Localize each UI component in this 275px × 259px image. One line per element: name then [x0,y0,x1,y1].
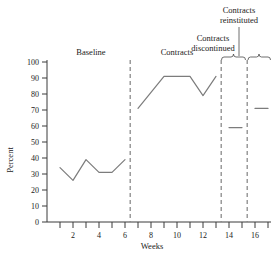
y-axis-title: Percent [5,147,15,173]
x-tick-8: 8 [149,231,153,240]
phase-label-baseline: Baseline [76,47,105,57]
x-axis-title: Weeks [141,241,163,251]
y-tick-80: 80 [31,90,39,99]
annotation-discontinued-line2: discontinued [191,43,235,53]
x-axis-ticks [60,222,268,228]
y-tick-40: 40 [31,154,39,163]
y-tick-10: 10 [31,202,39,211]
series-baseline [60,160,125,181]
x-tick-10: 10 [173,231,181,240]
y-tick-70: 70 [31,106,39,115]
y-tick-30: 30 [31,170,39,179]
line-chart: Percent Weeks 100 90 80 70 60 50 [0,0,275,259]
y-tick-0: 0 [35,218,39,227]
y-tick-90: 90 [31,74,39,83]
y-tick-20: 20 [31,186,39,195]
x-tick-6: 6 [123,231,127,240]
x-tick-16: 16 [251,231,259,240]
y-axis-tick-labels: 100 90 80 70 60 50 40 30 20 10 0 [27,58,39,227]
phase-label-contracts: Contracts [161,47,194,57]
y-tick-100: 100 [27,58,39,67]
brace-discontinued [222,54,246,60]
x-tick-2: 2 [71,231,75,240]
x-tick-4: 4 [97,231,101,240]
annotation-discontinued-line1: Contracts [197,33,230,43]
annotation-reinstituted-line1: Contracts [223,5,256,15]
annotation-reinstituted-line2: reinstituted [220,15,259,25]
series-contracts [138,76,216,108]
brace-reinstituted [248,54,271,60]
x-tick-12: 12 [199,231,207,240]
x-tick-14: 14 [225,231,233,240]
y-axis-ticks [42,62,47,222]
chart-container: Percent Weeks 100 90 80 70 60 50 [0,0,275,259]
y-tick-60: 60 [31,122,39,131]
y-tick-50: 50 [31,138,39,147]
x-axis-tick-labels: 2 4 6 8 10 12 14 16 [71,231,259,240]
